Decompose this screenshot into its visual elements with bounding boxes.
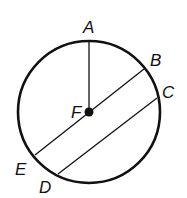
label-b: B [150,51,161,70]
label-c: C [162,83,175,102]
center-point-f [85,108,94,117]
label-d: D [39,178,51,197]
label-e: E [15,160,27,179]
label-f: F [71,103,83,122]
diagram-canvas: A B C D E F [0,0,187,198]
geometry-diagram: A B C D E F [0,0,187,198]
label-a: A [82,18,94,37]
